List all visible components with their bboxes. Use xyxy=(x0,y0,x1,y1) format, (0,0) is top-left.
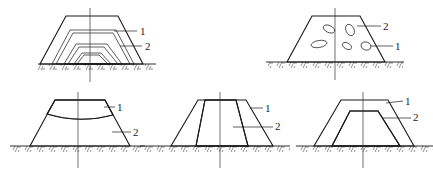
label-1: 1 xyxy=(117,101,123,113)
label-2: 2 xyxy=(133,126,139,138)
ground-hatch xyxy=(140,146,290,152)
hatched-core-fill xyxy=(196,100,248,146)
label-1: 1 xyxy=(405,95,411,107)
stone-inclusion xyxy=(344,23,356,37)
label-2: 2 xyxy=(275,120,281,132)
embankment-outline xyxy=(171,100,273,146)
stippled-core xyxy=(332,111,400,146)
embankment-outline xyxy=(287,16,385,62)
embankment-outline xyxy=(314,100,414,146)
embankment-diagram: 1 2 2 1 1 2 xyxy=(0,0,433,174)
figure-a-layered: 1 2 xyxy=(38,8,156,82)
figure-d-core: 1 2 xyxy=(140,92,290,168)
stippled-core-fill xyxy=(332,111,400,146)
stone-inclusion xyxy=(360,41,372,52)
ground-hatch xyxy=(10,146,145,152)
label-2: 2 xyxy=(145,40,151,52)
stone-inclusion xyxy=(341,41,353,51)
figure-c-cap: 1 2 xyxy=(10,92,145,168)
figure-e-shell: 1 2 xyxy=(296,92,433,168)
ground-hatch xyxy=(298,146,433,152)
ground-hatch xyxy=(38,64,156,70)
label-1: 1 xyxy=(265,102,271,114)
stippled-cap-fill xyxy=(47,100,113,119)
stone-inclusion xyxy=(311,39,328,49)
label-1: 1 xyxy=(140,25,146,37)
label-2: 2 xyxy=(383,20,389,32)
label-2: 2 xyxy=(413,111,419,123)
ground-hatch xyxy=(268,62,403,68)
figure-b-inclusions: 2 1 xyxy=(266,8,404,80)
stone-inclusion xyxy=(322,23,336,34)
layer-core-hatch xyxy=(77,55,108,64)
label-1: 1 xyxy=(395,40,401,52)
